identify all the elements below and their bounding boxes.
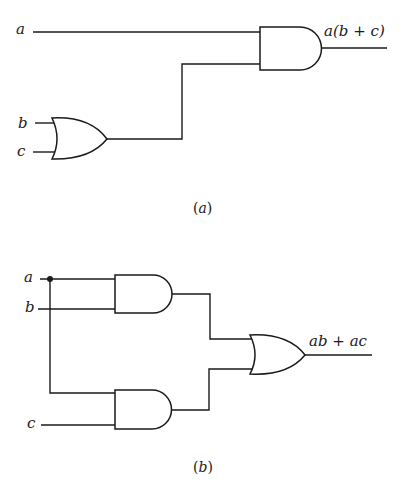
wire-a-branch — [50, 279, 115, 393]
and-gate-a — [260, 27, 321, 70]
wire-and-bottom-to-or — [171, 369, 252, 410]
wire-and-top-to-or — [172, 294, 252, 339]
input-label-c: c — [17, 144, 25, 159]
or-gate-a — [52, 118, 107, 159]
circuit-a — [33, 27, 387, 159]
circuit-b — [38, 275, 372, 429]
caption-a-letter: a — [198, 200, 206, 216]
input-label-b-b: b — [25, 300, 35, 315]
input-label-b: b — [18, 116, 28, 131]
caption-b-letter: b — [198, 459, 207, 475]
caption-b: (b) — [193, 460, 213, 474]
output-label-a: a(b + c) — [324, 24, 385, 39]
and-gate-b-top — [115, 275, 172, 313]
circuit-diagram — [0, 0, 406, 489]
wire-or-to-and-a — [107, 64, 260, 139]
output-label-b: ab + ac — [309, 334, 367, 349]
clipped-caption-fragment — [0, 484, 406, 489]
input-label-c-b: c — [27, 416, 35, 431]
caption-a: (a) — [193, 201, 212, 215]
input-label-a: a — [16, 22, 25, 37]
and-gate-b-bottom — [115, 390, 172, 429]
or-gate-b — [250, 335, 305, 374]
input-label-a-b: a — [24, 270, 33, 285]
